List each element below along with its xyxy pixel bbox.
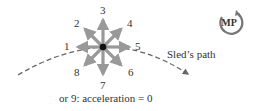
- center-dot: [100, 44, 107, 51]
- mp-badge-icon: MP: [220, 10, 242, 34]
- arrow-label-5: 5: [135, 41, 141, 52]
- caption: or 9: acceleration = 0: [59, 93, 153, 104]
- svg-text:MP: MP: [221, 17, 237, 28]
- arrow-8: [85, 47, 103, 65]
- acceleration-direction-diagram: MP 1 2 3 4 5 6 7 8 Sled’s path or 9: acc…: [0, 0, 257, 111]
- arrow-6: [103, 47, 121, 65]
- arrow-label-8: 8: [74, 67, 80, 78]
- arrow-label-3: 3: [100, 5, 106, 16]
- arrow-label-2: 2: [74, 18, 80, 29]
- arrow-2: [85, 29, 103, 47]
- arrow-label-4: 4: [127, 18, 133, 29]
- arrow-label-6: 6: [128, 67, 134, 78]
- arrow-label-7: 7: [100, 80, 106, 91]
- sled-path-label: Sled’s path: [167, 49, 216, 60]
- arrow-label-1: 1: [64, 41, 70, 52]
- arrow-4: [103, 29, 121, 47]
